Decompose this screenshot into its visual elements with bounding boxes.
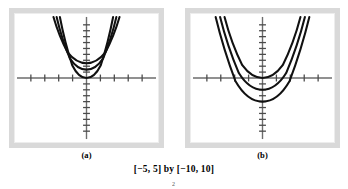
viewing-window-caption: [−5, 5] by [−10, 10] bbox=[0, 164, 348, 174]
plot-canvas-b bbox=[191, 14, 334, 142]
graph-panel-a bbox=[9, 8, 164, 148]
panel-label-b: (b) bbox=[185, 150, 340, 160]
graph-panel-b bbox=[185, 8, 340, 148]
calculator-screen-a bbox=[14, 13, 159, 143]
calculator-screen-b bbox=[190, 13, 335, 143]
plot-canvas-a bbox=[15, 14, 158, 142]
figure-container: (a) bbox=[0, 0, 348, 189]
panel-label-a: (a) bbox=[9, 150, 164, 160]
cropped-text-artifact: 2 bbox=[172, 182, 178, 187]
